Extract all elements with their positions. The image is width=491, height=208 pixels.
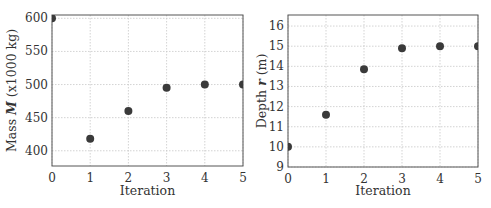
grid [52, 15, 243, 166]
y-tick-label: 14 [269, 59, 285, 73]
y-tick-label: 10 [269, 140, 284, 154]
y-tick-label: 400 [25, 144, 48, 158]
data-point [86, 135, 94, 143]
data-point [474, 42, 482, 50]
plot-depth: 012345910111213141516IterationDepth r (m… [254, 15, 482, 198]
plot-frame [52, 15, 243, 166]
grid [288, 15, 478, 167]
data-point [398, 44, 406, 52]
y-tick-label: 11 [269, 120, 284, 134]
y-tick-label: 16 [269, 19, 284, 33]
x-tick-label: 0 [48, 171, 56, 185]
x-tick-label: 1 [322, 172, 330, 186]
x-tick-label: 1 [86, 171, 94, 185]
x-tick-label: 5 [239, 171, 247, 185]
data-point [124, 107, 132, 115]
data-points [48, 14, 247, 143]
data-point [436, 42, 444, 50]
data-points [284, 42, 482, 151]
y-tick-label: 450 [25, 111, 48, 125]
data-point [360, 65, 368, 73]
data-point [239, 81, 247, 89]
x-axis-label: Iteration [120, 183, 175, 198]
y-tick-label: 15 [269, 39, 284, 53]
x-axis-label: Iteration [355, 183, 410, 198]
y-tick-label: 500 [25, 78, 48, 92]
y-tick-label: 12 [269, 100, 284, 114]
data-point [201, 81, 209, 89]
y-axis-label: Depth r (m) [254, 54, 269, 129]
y-tick-label: 550 [25, 44, 48, 58]
plot-frame [288, 15, 478, 167]
y-tick-label: 13 [269, 79, 284, 93]
x-tick-label: 4 [201, 171, 209, 185]
plot-mass: 012345400450500550600IterationMass M (x1… [4, 11, 247, 198]
data-point [163, 84, 171, 92]
y-tick-label: 9 [276, 160, 284, 174]
x-tick-label: 4 [436, 172, 444, 186]
x-tick-label: 5 [474, 172, 482, 186]
y-tick-label: 600 [25, 11, 48, 25]
data-point [322, 111, 330, 119]
figure: 012345400450500550600IterationMass M (x1… [0, 0, 491, 208]
y-axis-label: Mass M (x1000 kg) [4, 29, 19, 152]
data-point [284, 143, 292, 151]
data-point [48, 14, 56, 22]
x-tick-label: 0 [284, 172, 292, 186]
